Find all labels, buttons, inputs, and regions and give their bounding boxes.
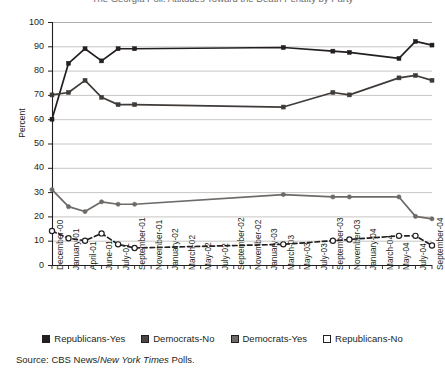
legend-swatch-icon: [42, 335, 50, 343]
data-point: [100, 59, 104, 63]
series-line-2: [52, 190, 432, 219]
data-point: [133, 202, 137, 206]
data-point: [67, 90, 71, 94]
series-line-0: [52, 41, 432, 119]
legend-item[interactable]: Republicans-Yes: [42, 333, 125, 344]
data-point: [50, 188, 54, 192]
source-note: Source: CBS News/New York Times Polls.: [16, 354, 195, 365]
data-point: [347, 50, 351, 54]
source-publication: New York Times: [100, 354, 169, 365]
data-point: [115, 242, 120, 247]
data-point: [331, 49, 335, 53]
data-point: [430, 43, 434, 47]
chart-figure: The Georgia Poll: Attitudes Toward the D…: [0, 0, 445, 374]
data-point: [116, 103, 120, 107]
legend-label: Democrats-Yes: [243, 333, 308, 344]
data-point: [99, 200, 103, 204]
legend-label: Republicans-Yes: [54, 333, 125, 344]
source-prefix: Source: CBS News/: [16, 354, 100, 365]
data-point: [66, 236, 71, 241]
source-suffix: Polls.: [169, 354, 195, 365]
data-point: [413, 73, 417, 77]
data-point: [396, 233, 401, 238]
data-point: [430, 78, 434, 82]
data-point: [413, 39, 417, 43]
data-point: [347, 237, 352, 242]
data-point: [83, 78, 87, 82]
data-point: [82, 238, 87, 243]
legend-item[interactable]: Democrats-No: [141, 333, 214, 344]
data-point: [413, 214, 417, 218]
data-point: [430, 217, 434, 221]
data-point: [50, 93, 54, 97]
data-point: [429, 243, 434, 248]
data-point: [83, 47, 87, 51]
data-point: [99, 231, 104, 236]
series-line-3: [52, 231, 432, 248]
data-point: [397, 56, 401, 60]
legend-swatch-icon: [323, 335, 331, 343]
data-point: [331, 195, 335, 199]
data-point: [281, 242, 286, 247]
data-point: [67, 61, 71, 65]
data-point: [83, 209, 87, 213]
data-point: [133, 103, 137, 107]
data-point: [347, 195, 351, 199]
legend-label: Democrats-No: [153, 333, 214, 344]
data-point: [397, 76, 401, 80]
data-point: [50, 117, 54, 121]
plot-area: [0, 0, 445, 374]
data-point: [347, 93, 351, 97]
chart-legend: Republicans-YesDemocrats-NoDemocrats-Yes…: [0, 333, 445, 344]
data-point: [281, 192, 285, 196]
legend-label: Republicans-No: [335, 333, 403, 344]
data-point: [133, 47, 137, 51]
data-point: [49, 228, 54, 233]
data-point: [66, 205, 70, 209]
legend-swatch-icon: [231, 335, 239, 343]
data-point: [413, 233, 418, 238]
data-point: [330, 238, 335, 243]
data-point: [397, 195, 401, 199]
series-line-1: [52, 75, 432, 107]
legend-item[interactable]: Republicans-No: [323, 333, 403, 344]
data-point: [116, 47, 120, 51]
data-point: [132, 245, 137, 250]
data-point: [116, 202, 120, 206]
data-point: [281, 46, 285, 50]
data-point: [331, 90, 335, 94]
data-point: [100, 95, 104, 99]
data-point: [281, 105, 285, 109]
legend-swatch-icon: [141, 335, 149, 343]
legend-item[interactable]: Democrats-Yes: [231, 333, 308, 344]
